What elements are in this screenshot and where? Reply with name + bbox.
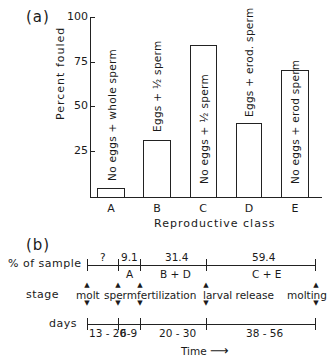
bar-annotation-D: Eggs + erod. sperm (243, 7, 255, 117)
up-arrow-icon: ▲ (201, 282, 211, 289)
x-cat-A: A (101, 202, 121, 215)
x-cat-E: E (285, 202, 305, 215)
y-axis (90, 17, 91, 198)
pct-value-CE: 59.4 (252, 251, 275, 263)
x-axis (90, 197, 322, 198)
up-arrow-icon: ▲ (135, 282, 145, 289)
bar-A (97, 188, 125, 197)
down-arrow-icon: ▼ (82, 300, 92, 307)
stage-sperm: sperm (104, 289, 137, 301)
timeline-tick (315, 318, 316, 330)
pct-value-unknown: ? (100, 251, 106, 263)
pct-value-A: 9.1 (121, 251, 138, 263)
x-axis-label: Reproductive class (154, 217, 275, 230)
x-cat-C: C (193, 202, 213, 215)
up-arrow-icon: ▲ (311, 282, 321, 289)
bar-B (143, 140, 171, 197)
x-cat-B: B (147, 202, 167, 215)
down-arrow-icon: ▼ (113, 300, 123, 307)
bar-D (236, 123, 262, 197)
stage-larval-release: larval release (203, 289, 274, 301)
timeline-tick (118, 259, 119, 271)
bar-annotation-C: No eggs + ½ sperm (198, 74, 210, 184)
time-label: Time (181, 345, 207, 357)
stage-molting: molting (287, 289, 327, 301)
row-label-pct: % of sample (8, 257, 82, 270)
pct-value-BD: 31.4 (165, 251, 188, 263)
up-arrow-icon: ▲ (82, 282, 92, 289)
days-6-9: 6-9 (120, 327, 137, 339)
timeline-tick (140, 259, 141, 271)
y-tick-100: 100 (62, 10, 88, 23)
bar-annotation-A: No eggs + whole sperm (106, 49, 118, 181)
bar-annotation-B: Eggs + ½ sperm (151, 40, 163, 132)
days-timeline (87, 324, 316, 325)
panel-b-label: (b) (26, 236, 50, 254)
up-arrow-icon: ▲ (113, 282, 123, 289)
pct-timeline-2 (206, 265, 316, 266)
down-arrow-icon: ▼ (311, 300, 321, 307)
pct-class-A: A (126, 268, 133, 280)
row-label-stage: stage (26, 288, 59, 301)
panel-a-label: (a) (26, 8, 50, 26)
days-20-30: 20 - 30 (159, 327, 196, 339)
stage-molt: molt (76, 289, 100, 301)
right-arrow-icon: ⟶ (210, 343, 229, 358)
pct-class-CE: C + E (252, 268, 281, 280)
timeline-tick (206, 318, 207, 330)
y-tick-25: 25 (62, 144, 88, 157)
bar-annotation-E: No eggs + erod sperm (289, 60, 301, 184)
timeline-tick (87, 259, 88, 271)
down-arrow-icon: ▼ (135, 300, 145, 307)
row-label-days: days (49, 317, 77, 330)
pct-class-BD: B + D (160, 268, 191, 280)
y-tick-50: 50 (62, 99, 88, 112)
stage-fertilization: fertilization (137, 289, 196, 301)
timeline-tick (140, 318, 141, 330)
x-cat-D: D (239, 202, 259, 215)
y-tick-75: 75 (62, 55, 88, 68)
down-arrow-icon: ▼ (201, 300, 211, 307)
days-38-56: 38 - 56 (246, 327, 283, 339)
